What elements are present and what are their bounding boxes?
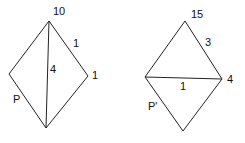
right-right-label: 4 [227,74,233,85]
right-diagonal [145,77,222,79]
figures-svg [0,0,245,143]
left-top-label: 10 [53,6,65,17]
left-polygon-label: P [13,94,20,105]
left-right-label: 1 [92,70,98,81]
left-diagonal-label: 4 [50,64,56,75]
left-edge-label: 1 [73,38,79,49]
right-diagonal-label: 1 [180,81,186,92]
right-top-label: 15 [191,9,203,20]
left-diagonal [46,21,49,128]
right-edge-label: 3 [205,37,211,48]
right-polygon-label: P' [148,101,157,112]
diagram: 10 1 1 4 P 15 3 4 1 P' [0,0,245,143]
